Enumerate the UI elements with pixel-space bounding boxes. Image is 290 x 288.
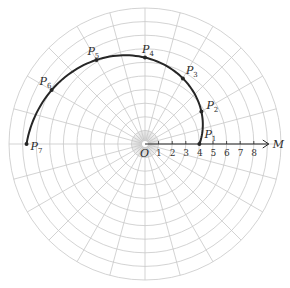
point-label: P7 (30, 140, 43, 155)
origin-label: O (140, 147, 149, 160)
axis-tick-label: 2 (170, 148, 176, 158)
grid-spoke (145, 144, 180, 275)
point-marker (199, 109, 203, 113)
grid-spoke (77, 26, 145, 144)
point-label: P5 (86, 45, 99, 60)
axis-tick-label: 1 (156, 148, 162, 158)
point-marker (181, 76, 185, 80)
point-marker (25, 142, 29, 146)
polar-diagram: MO12345678 P1P2P3P4P5P6P7 (0, 0, 290, 288)
point-marker (143, 56, 147, 60)
axis-tick-label: 6 (224, 148, 230, 158)
point-label: P3 (185, 64, 198, 79)
axis-tick-label: 3 (183, 148, 189, 158)
grid-spoke (27, 144, 145, 212)
axis-label: M (272, 138, 285, 151)
axis-tick-label: 7 (238, 148, 244, 158)
grid-spoke (145, 13, 180, 144)
grid-spoke (110, 13, 145, 144)
polar-grid-canvas: MO12345678 P1P2P3P4P5P6P7 (0, 0, 290, 288)
axis-tick-label: 4 (197, 148, 203, 158)
point-label: P4 (141, 43, 154, 58)
point-label: P6 (39, 75, 52, 90)
grid-spoke (14, 109, 145, 144)
point-marker (197, 142, 201, 146)
grid-spoke (77, 144, 145, 262)
point-label: P2 (205, 99, 218, 114)
axis-tick-label: 5 (211, 148, 217, 158)
axis-tick-label: 8 (251, 148, 257, 158)
grid-spoke (110, 144, 145, 275)
grid-spoke (145, 144, 213, 262)
point-label: P1 (203, 128, 216, 143)
grid-spoke (145, 144, 263, 212)
